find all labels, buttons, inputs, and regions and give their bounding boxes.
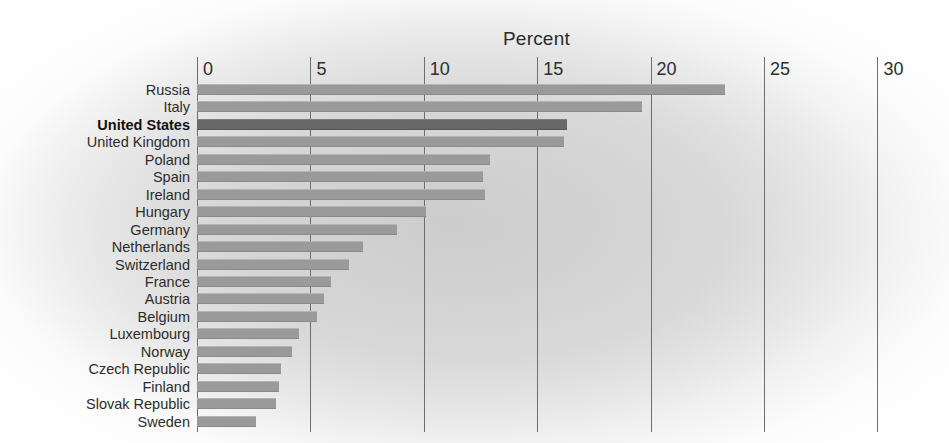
bar-chart-plot: Percent 051015202530 RussiaItalyUnited S… — [0, 0, 949, 443]
bar — [197, 381, 279, 392]
bar — [197, 154, 490, 165]
bar — [197, 363, 281, 374]
bar — [197, 311, 317, 322]
bar — [197, 398, 276, 409]
bar — [197, 293, 324, 304]
bar — [197, 171, 483, 182]
bar — [197, 189, 485, 200]
bar — [197, 416, 256, 427]
chart-figure: Percent 051015202530 RussiaItalyUnited S… — [0, 0, 949, 443]
bar — [197, 101, 642, 112]
bar — [197, 259, 349, 270]
bar — [197, 346, 292, 357]
bars — [0, 0, 949, 443]
bar — [197, 328, 299, 339]
bar — [197, 224, 397, 235]
bar — [197, 136, 564, 147]
bar — [197, 206, 426, 217]
bar — [197, 276, 331, 287]
bar — [197, 84, 725, 95]
bar — [197, 241, 363, 252]
bar-highlighted — [197, 119, 567, 130]
